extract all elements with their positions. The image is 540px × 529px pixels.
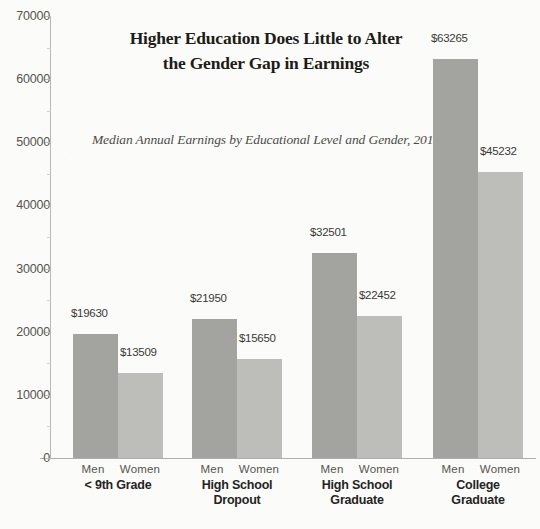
gender-label-men: Men (190, 463, 234, 475)
y-axis-tick-label: 60000 (6, 72, 50, 86)
bar-women (478, 172, 523, 458)
bar-value-label: $19630 (71, 307, 108, 319)
x-axis-category-name-line: Graduate (398, 493, 540, 508)
bar-value-label: $45232 (480, 145, 517, 157)
y-axis-tick-label: 40000 (6, 198, 50, 212)
gender-label-men: Men (71, 463, 115, 475)
bar-women (237, 359, 282, 458)
bar-value-label: $15650 (239, 332, 276, 344)
bar-group: $63265$45232 (433, 16, 523, 458)
gender-label-women: Women (354, 463, 404, 475)
bar-men (192, 319, 237, 458)
bar-men (433, 59, 478, 458)
y-axis-tick-label: 70000 (6, 9, 50, 23)
bar-group: $21950$15650 (192, 16, 282, 458)
y-axis-tick-label: 10000 (6, 388, 50, 402)
bar-value-label: $22452 (359, 289, 396, 301)
x-axis-gender-labels: MenWomen (398, 463, 540, 475)
bar-men (312, 253, 357, 458)
bar-group: $32501$22452 (312, 16, 402, 458)
plot-area: $19630$13509$21950$15650$32501$22452$632… (51, 16, 536, 458)
bar-value-label: $13509 (120, 346, 157, 358)
bar-group: $19630$13509 (73, 16, 163, 458)
x-axis-line (40, 458, 536, 459)
bar-women (357, 316, 402, 458)
bar-value-label: $32501 (310, 226, 347, 238)
y-axis-tick-label: 20000 (6, 325, 50, 339)
gender-label-men: Men (431, 463, 475, 475)
bar-women (118, 373, 163, 458)
bar-chart: Higher Education Does Little to Alter th… (0, 0, 540, 529)
x-axis-category-name: CollegeGraduate (398, 478, 540, 507)
y-axis-tick-mark (45, 458, 51, 459)
gender-label-men: Men (310, 463, 354, 475)
y-axis-tick-label: 50000 (6, 135, 50, 149)
x-axis-category-name-line: College (398, 478, 540, 493)
bar-value-label: $63265 (431, 32, 468, 44)
y-axis-labels: 010000200003000040000500006000070000 (0, 0, 50, 529)
y-axis-tick-label: 30000 (6, 262, 50, 276)
gender-label-women: Women (475, 463, 525, 475)
bar-value-label: $21950 (190, 292, 227, 304)
x-axis-category: MenWomenCollegeGraduate (398, 463, 540, 507)
bar-men (73, 334, 118, 458)
